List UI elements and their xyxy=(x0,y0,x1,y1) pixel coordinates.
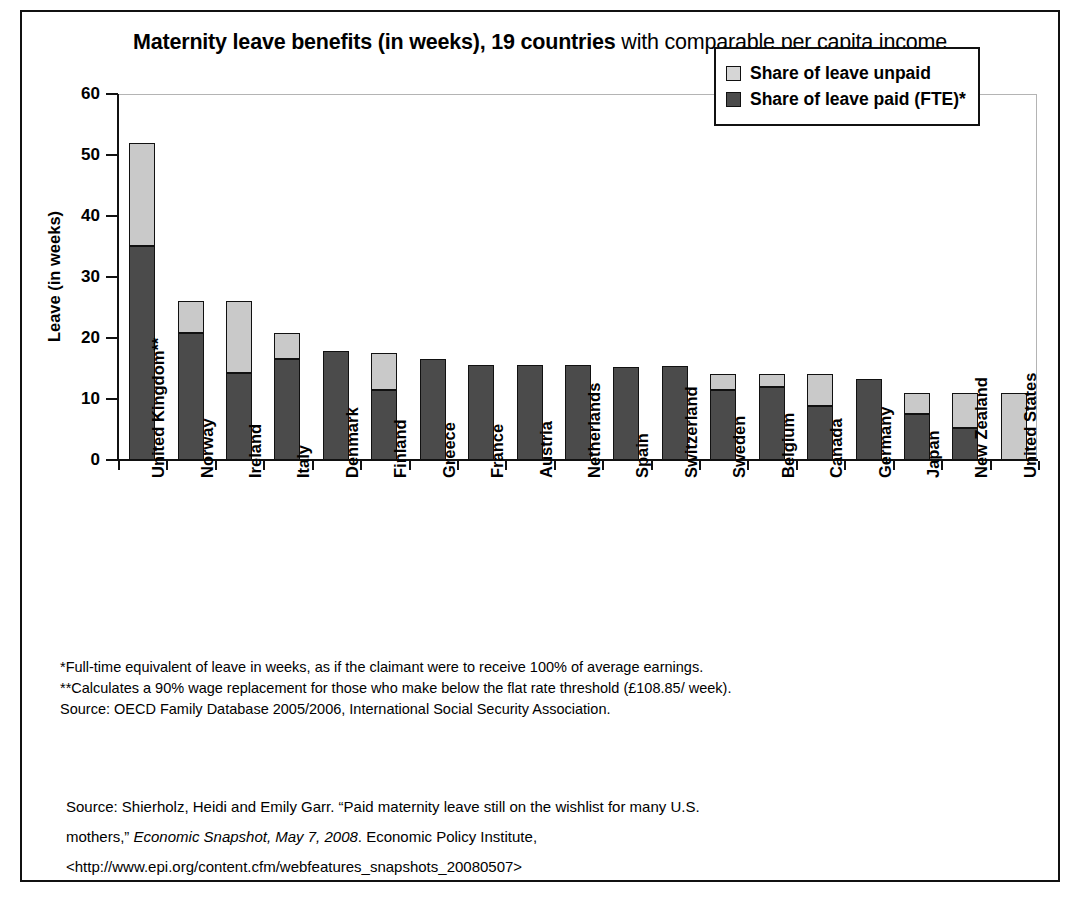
citation-publication: Economic Snapshot, May 7, 2008 xyxy=(134,828,358,845)
footnote-2: **Calculates a 90% wage replacement for … xyxy=(60,678,1020,699)
x-axis-label: United States xyxy=(1021,373,1040,478)
x-axis-label: Germany xyxy=(876,406,895,478)
bar-segment-unpaid xyxy=(178,301,204,333)
bar-segment-unpaid xyxy=(274,333,300,359)
y-axis-tick xyxy=(106,215,118,217)
chart-legend: Share of leave unpaid Share of leave pai… xyxy=(714,47,980,126)
y-axis-tick xyxy=(106,93,118,95)
bar-segment-unpaid xyxy=(371,353,397,390)
x-axis-label: Belgium xyxy=(779,413,798,478)
x-axis-label: Netherlands xyxy=(585,383,604,478)
x-axis-label: Switzerland xyxy=(682,386,701,478)
citation-line-2: mothers,” Economic Snapshot, May 7, 2008… xyxy=(66,822,1026,852)
y-axis-tick xyxy=(106,459,118,461)
x-axis-label: Canada xyxy=(827,418,846,478)
y-axis-tick-label: 50 xyxy=(48,145,100,165)
x-axis-label: Denmark xyxy=(343,407,362,478)
footnote-1: *Full-time equivalent of leave in weeks,… xyxy=(60,657,1020,678)
x-axis-label: France xyxy=(488,424,507,478)
bar-segment-unpaid xyxy=(904,393,930,414)
y-axis-tick-label: 20 xyxy=(48,328,100,348)
legend-item-unpaid: Share of leave unpaid xyxy=(726,63,966,84)
y-axis-tick xyxy=(106,337,118,339)
citation-line-1: Source: Shierholz, Heidi and Emily Garr.… xyxy=(66,792,1026,822)
x-axis-label: United Kingdom** xyxy=(149,338,168,478)
citation-line-2-b: . Economic Policy Institute, xyxy=(358,828,537,845)
y-axis-tick-label: 30 xyxy=(48,267,100,287)
y-axis-tick xyxy=(106,398,118,400)
footnotes: *Full-time equivalent of leave in weeks,… xyxy=(60,657,1020,720)
bar-segment-unpaid xyxy=(226,301,252,372)
y-axis-tick xyxy=(106,276,118,278)
bar-segment-unpaid xyxy=(759,374,785,387)
source-citation: Source: Shierholz, Heidi and Emily Garr.… xyxy=(66,792,1026,882)
y-axis-tick-label: 40 xyxy=(48,206,100,226)
x-axis-label: Finland xyxy=(391,419,410,478)
legend-item-paid: Share of leave paid (FTE)* xyxy=(726,89,966,110)
legend-swatch-unpaid-icon xyxy=(726,66,741,81)
y-axis-tick-label: 60 xyxy=(48,84,100,104)
x-axis-label: Spain xyxy=(633,433,652,478)
legend-label-paid: Share of leave paid (FTE)* xyxy=(750,89,966,110)
x-axis-label: Greece xyxy=(440,422,459,478)
y-axis-tick-label: 0 xyxy=(48,450,100,470)
legend-label-unpaid: Share of leave unpaid xyxy=(750,63,931,84)
legend-swatch-paid-icon xyxy=(726,92,741,107)
citation-line-2-a: mothers,” xyxy=(66,828,134,845)
x-axis-tick xyxy=(118,461,120,470)
y-axis-tick-label: 10 xyxy=(48,389,100,409)
x-axis-label: Italy xyxy=(294,445,313,478)
bar-segment-unpaid xyxy=(129,143,155,247)
x-axis-label: New Zealand xyxy=(972,377,991,478)
bar-segment-unpaid xyxy=(710,374,736,390)
x-axis-label: Austria xyxy=(537,421,556,478)
x-axis-label: Sweden xyxy=(730,416,749,478)
plot-wrapper: Leave (in weeks) 0102030405060 United Ki… xyxy=(22,12,1062,884)
x-axis-label: Japan xyxy=(924,430,943,478)
bar-segment-unpaid xyxy=(807,374,833,406)
footnote-3: Source: OECD Family Database 2005/2006, … xyxy=(60,699,1020,720)
bar-italy[interactable] xyxy=(274,333,300,460)
x-axis-label: Ireland xyxy=(246,424,265,478)
citation-url: <http://www.epi.org/content.cfm/webfeatu… xyxy=(66,852,1026,882)
y-axis-tick xyxy=(106,154,118,156)
x-axis-label: Norway xyxy=(198,418,217,478)
chart-frame: Maternity leave benefits (in weeks), 19 … xyxy=(20,10,1060,882)
